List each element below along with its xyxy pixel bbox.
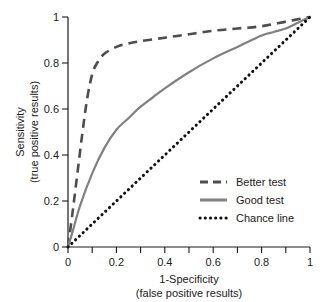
y-tick-label: 0 [53,241,59,253]
y-axis-title: Sensitivity [14,107,26,157]
x-tick-label: 0.8 [254,256,269,268]
legend-label: Better test [236,176,286,188]
x-tick-label: 0.2 [109,256,124,268]
x-axis-subtitle: (false positive results) [136,287,242,299]
y-tick-label: 1 [53,11,59,23]
x-tick-label: 0.4 [157,256,172,268]
legend-label: Good test [236,194,284,206]
legend-label: Chance line [236,212,294,224]
y-tick-label: 0.4 [44,149,59,161]
x-axis-title: 1-Specificity [159,273,219,285]
x-tick-label: 0 [65,256,71,268]
y-axis-subtitle: (true positive results) [28,81,40,183]
x-tick-label: 0.6 [206,256,221,268]
x-tick-label: 1 [307,256,313,268]
y-tick-label: 0.2 [44,195,59,207]
chart-canvas: 1 0.8 0.6 0.4 0.2 0 0 0.2 0.4 0.6 0.8 1 … [0,0,324,302]
roc-curve-chart: 1 0.8 0.6 0.4 0.2 0 0 0.2 0.4 0.6 0.8 1 … [0,0,324,302]
y-tick-label: 0.6 [44,103,59,115]
y-tick-label: 0.8 [44,57,59,69]
